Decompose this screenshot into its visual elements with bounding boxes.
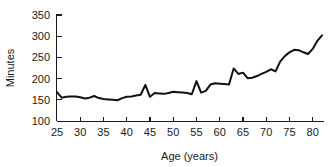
x-tick-label-70: 70 (260, 126, 272, 138)
x-tick-label-45: 45 (144, 126, 156, 138)
x-tick-label-80: 80 (307, 126, 319, 138)
chart-container: 100150200250300350 253035404550556065707… (0, 0, 335, 167)
x-tick-label-30: 30 (74, 126, 86, 138)
line-chart: 100150200250300350 253035404550556065707… (0, 0, 335, 167)
x-tick-label-40: 40 (121, 126, 133, 138)
x-tick-label-65: 65 (237, 126, 249, 138)
axis-ticks (57, 15, 313, 122)
y-tick-labels: 100150200250300350 (32, 9, 50, 127)
x-tick-label-55: 55 (190, 126, 202, 138)
y-tick-label-350: 350 (32, 9, 50, 21)
y-tick-label-250: 250 (32, 51, 50, 63)
data-series (57, 35, 322, 100)
y-axis-title: Minutes (4, 48, 16, 87)
y-tick-label-300: 300 (32, 30, 50, 42)
x-tick-label-60: 60 (214, 126, 226, 138)
y-tick-label-150: 150 (32, 94, 50, 106)
data-line-Minutes (57, 35, 322, 100)
x-tick-label-75: 75 (283, 126, 295, 138)
x-axis-title: Age (years) (161, 150, 218, 162)
x-tick-labels: 253035404550556065707580 (51, 126, 319, 138)
y-tick-label-100: 100 (32, 115, 50, 127)
y-tick-label-200: 200 (32, 73, 50, 85)
x-tick-label-35: 35 (97, 126, 109, 138)
x-tick-label-50: 50 (167, 126, 179, 138)
x-tick-label-25: 25 (51, 126, 63, 138)
